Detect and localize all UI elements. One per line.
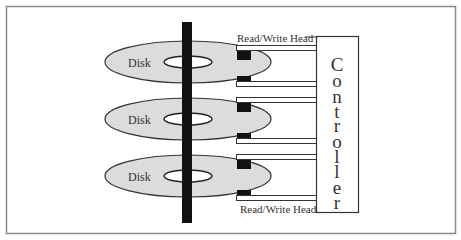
head-block bbox=[237, 190, 251, 195]
svg-text:r: r bbox=[334, 192, 341, 213]
head-block bbox=[237, 51, 251, 60]
head-arm bbox=[237, 139, 317, 144]
head-label-top: Read/Write Head bbox=[237, 32, 314, 44]
disk-controller-diagram: Disk Disk Disk C o n bbox=[0, 0, 461, 240]
head-block bbox=[237, 133, 251, 138]
disk-label: Disk bbox=[128, 113, 151, 127]
disk-label: Disk bbox=[128, 56, 151, 70]
head-arm bbox=[237, 46, 317, 51]
head-arm bbox=[237, 155, 317, 160]
head-block bbox=[237, 103, 251, 112]
head-arm bbox=[237, 82, 317, 87]
head-block bbox=[237, 160, 251, 169]
head-label-bottom: Read/Write Head bbox=[240, 203, 317, 215]
head-block bbox=[237, 76, 251, 81]
head-arm bbox=[237, 98, 317, 103]
disk-label: Disk bbox=[128, 170, 151, 184]
head-arm bbox=[237, 196, 317, 201]
